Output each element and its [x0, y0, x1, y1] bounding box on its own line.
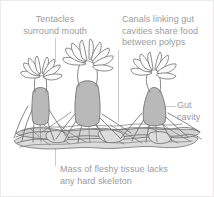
label-tentacles-surround-mouth: Tentacles surround mouth	[14, 14, 96, 37]
polyp-center-tentacle-crown	[63, 39, 113, 71]
polyp-left-gut-cavity	[32, 88, 49, 126]
label-mass-of-fleshy-tissue: Mass of fleshy tissue lacks any hard ske…	[60, 164, 190, 187]
polyp-right-gut-cavity	[143, 88, 166, 126]
label-gut-cavity: Gut cavity	[177, 100, 213, 123]
polyp-left	[14, 56, 66, 142]
label-canals-linking-gut-cavities: Canals linking gut cavities share food b…	[122, 14, 210, 49]
polyp-center-gut-cavity	[75, 81, 100, 127]
diagram-page: .ol { fill: none; stroke: #6f6f6f; strok…	[0, 0, 214, 197]
polyp-right-tentacle-crown	[131, 52, 176, 79]
